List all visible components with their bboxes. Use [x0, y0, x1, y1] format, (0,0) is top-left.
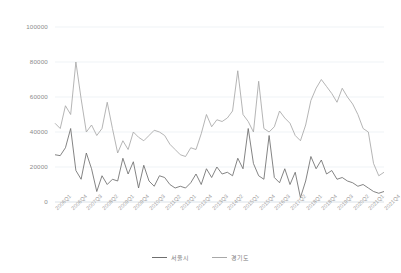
- chart-plot-area: [0, 0, 401, 273]
- series-line-경기도: [55, 62, 384, 176]
- chart-legend: 서울시경기도: [0, 249, 401, 265]
- y-tick-label: 40000: [0, 128, 48, 135]
- line-chart: 020000400006000080000100000 2006Q12006Q4…: [0, 0, 401, 273]
- series-line-서울시: [55, 129, 384, 198]
- y-tick-label: 60000: [0, 93, 48, 100]
- legend-label: 서울시: [171, 253, 190, 262]
- y-tick-label: 20000: [0, 163, 48, 170]
- legend-item-서울시[interactable]: 서울시: [152, 253, 190, 262]
- y-tick-label: 100000: [0, 23, 48, 30]
- legend-label: 경기도: [231, 253, 250, 262]
- legend-swatch-icon: [152, 257, 167, 258]
- y-tick-label: 80000: [0, 58, 48, 65]
- legend-swatch-icon: [212, 257, 227, 258]
- legend-item-경기도[interactable]: 경기도: [212, 253, 250, 262]
- y-tick-label: 0: [0, 198, 48, 205]
